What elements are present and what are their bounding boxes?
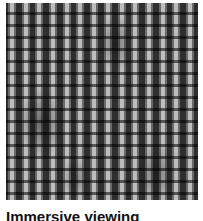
thumbnail-image[interactable] xyxy=(6,3,198,200)
image-shading xyxy=(6,3,198,200)
content-card[interactable]: Immersive viewing xyxy=(0,0,203,221)
card-title[interactable]: Immersive viewing xyxy=(6,208,139,221)
